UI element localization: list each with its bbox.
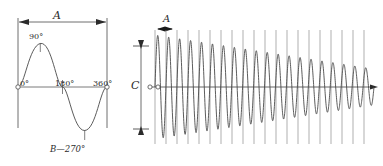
- label-a-right: A: [163, 14, 170, 24]
- label-c-amplitude: C: [131, 80, 139, 91]
- label-90-degrees: 90°: [29, 33, 43, 41]
- label-180-degrees: 180°: [55, 80, 74, 88]
- arrowhead-bottom-c: [138, 126, 144, 135]
- marker-origin-left: [148, 85, 152, 89]
- label-a-left: A: [53, 10, 61, 21]
- arrowhead-left-a-right: [157, 27, 165, 32]
- arrowhead-right-a: [96, 19, 106, 25]
- label-0-degrees: 0°: [20, 80, 29, 88]
- label-b-270-degrees: B—270°: [50, 145, 85, 154]
- marker-origin-right: [156, 85, 160, 89]
- arrowhead-left-a: [19, 19, 29, 25]
- label-360-degrees: 360°: [93, 80, 112, 88]
- arrowhead-top-c: [138, 40, 144, 49]
- right-panel-damped-wave: [133, 27, 378, 145]
